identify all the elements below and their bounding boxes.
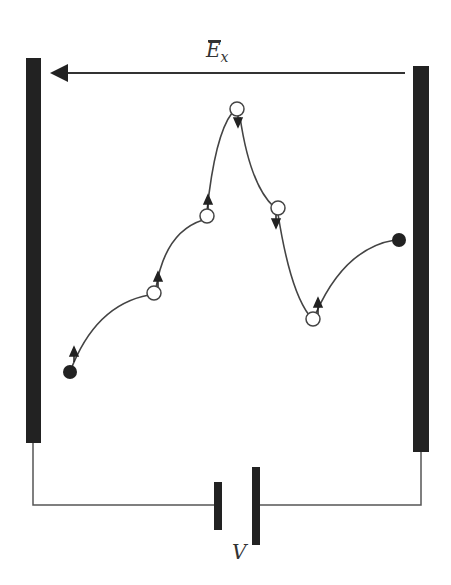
field-arrow-icon xyxy=(50,64,405,82)
left-electrode xyxy=(26,58,41,443)
battery-icon xyxy=(214,467,260,545)
trap-site xyxy=(306,312,320,326)
trap-site xyxy=(230,102,244,116)
field-symbol: E xyxy=(206,38,221,62)
field-label: Ex xyxy=(206,38,229,65)
carrier-path xyxy=(70,113,395,372)
trap-site xyxy=(200,209,214,223)
vector-bar xyxy=(208,40,221,42)
trap-site xyxy=(147,286,161,300)
trap-site xyxy=(271,201,285,215)
end-carrier-dot xyxy=(392,233,406,247)
field-subscript: x xyxy=(221,49,229,65)
right-electrode xyxy=(413,66,429,452)
start-carrier-dot xyxy=(63,365,77,379)
hopping-conduction-diagram xyxy=(0,0,451,585)
up-arrow-icon xyxy=(70,347,78,362)
hopping-sites xyxy=(63,102,406,379)
circuit-wire xyxy=(33,443,421,505)
hop-arrow-icons xyxy=(70,109,322,362)
voltage-label: V xyxy=(232,540,246,564)
